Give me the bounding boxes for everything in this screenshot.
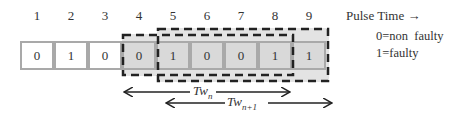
legend-faulty: 1=faulty: [376, 46, 418, 61]
tw-n1-label: Twn+1: [226, 94, 258, 112]
tw-n1-label-text: Tw: [227, 94, 242, 109]
tw-n-label-text: Tw: [193, 83, 208, 98]
legend-non-faulty: 0=non faulty: [376, 29, 443, 44]
tw-n-label: Twn: [192, 83, 213, 101]
window-n-border: [123, 35, 293, 75]
pulse-time-label: Pulse Time →: [346, 8, 420, 24]
window-n1-border: [158, 29, 328, 81]
tw-n1-subscript: n+1: [242, 102, 257, 112]
tw-n-subscript: n: [208, 91, 213, 101]
